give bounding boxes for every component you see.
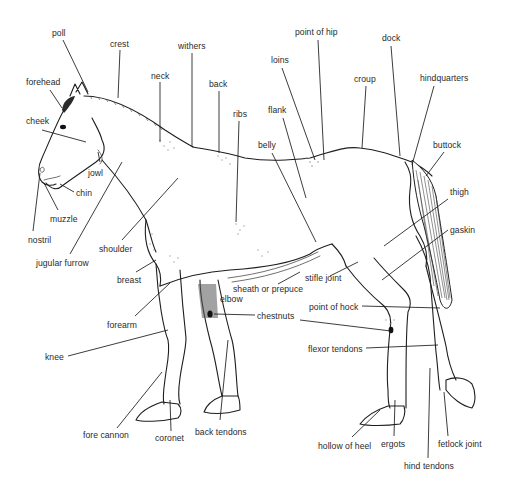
label-hollow-of-heel: hollow of heel: [318, 441, 371, 451]
label-hind-tendons: hind tendons: [404, 461, 454, 471]
label-gaskin: gaskin: [450, 225, 475, 235]
label-dock: dock: [382, 33, 400, 43]
label-fore-cannon: fore cannon: [83, 430, 129, 440]
label-croup: croup: [354, 74, 376, 84]
label-hindquarters: hindquarters: [420, 73, 468, 83]
label-neck: neck: [151, 71, 169, 81]
label-ergots: ergots: [381, 439, 405, 449]
label-nostril: nostril: [28, 235, 51, 245]
label-fetlock-joint: fetlock joint: [438, 439, 482, 449]
label-knee: knee: [45, 352, 64, 362]
horse-anatomy-diagram: poll crest withers neck back ribs forehe…: [0, 0, 509, 494]
label-poll: poll: [52, 28, 66, 38]
label-breast: breast: [117, 275, 141, 285]
label-elbow: elbow: [220, 294, 243, 304]
label-jugular-furrow: jugular furrow: [36, 258, 89, 268]
chestnut-fore-icon: [207, 310, 212, 317]
label-buttock: buttock: [433, 140, 461, 150]
label-chin: chin: [76, 188, 92, 198]
label-coronet: coronet: [155, 433, 184, 443]
label-jowl: jowl: [88, 168, 103, 178]
label-flexor-tendons: flexor tendons: [308, 344, 363, 354]
label-loins: loins: [271, 55, 289, 65]
label-stifle-joint: stifle joint: [305, 273, 341, 283]
leader-lines: [33, 40, 448, 458]
label-belly: belly: [258, 140, 276, 150]
label-crest: crest: [110, 39, 129, 49]
label-sheath-or-prepuce: sheath or prepuce: [233, 284, 303, 294]
label-thigh: thigh: [450, 187, 469, 197]
label-back: back: [209, 79, 227, 89]
label-point-of-hock: point of hock: [309, 302, 358, 312]
nostril-icon: [40, 167, 44, 172]
label-chestnuts: chestnuts: [257, 311, 294, 321]
label-point-of-hip: point of hip: [295, 27, 338, 37]
label-withers: withers: [178, 41, 206, 51]
stipple-shading: [149, 139, 394, 324]
eye-icon: [60, 125, 66, 129]
label-cheek: cheek: [26, 116, 49, 126]
label-flank: flank: [268, 105, 286, 115]
label-forehead: forehead: [26, 77, 60, 87]
label-back-tendons: back tendons: [195, 427, 247, 437]
chestnut-hind-icon: [389, 327, 394, 333]
ears-icon: [70, 82, 88, 96]
label-muzzle: muzzle: [50, 214, 78, 224]
label-ribs: ribs: [233, 109, 247, 119]
label-shoulder: shoulder: [99, 244, 132, 254]
label-forearm: forearm: [107, 320, 137, 330]
